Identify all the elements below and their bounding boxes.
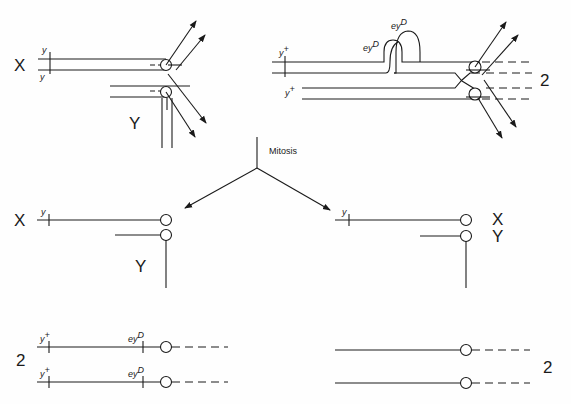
gene-label-ey-d: eyD	[391, 18, 407, 31]
chromosome-count: 2	[540, 72, 549, 89]
gene-label-y: y	[40, 73, 45, 82]
centromere	[461, 231, 472, 242]
gene-superscript: +	[45, 330, 50, 340]
gene-superscript: D	[138, 365, 145, 375]
label-x-chromosome: X	[14, 57, 25, 74]
label-y-chromosome: Y	[129, 115, 140, 132]
gene-label-y-plus: y+	[40, 366, 50, 379]
gene-label-ey-d: eyD	[128, 331, 144, 344]
gene-name: ey	[363, 43, 373, 53]
gene-superscript: +	[290, 84, 295, 94]
gene-superscript: D	[138, 330, 145, 340]
gene-name: ey	[128, 334, 138, 344]
centromere	[461, 215, 472, 226]
mitosis-branch-arrows	[185, 137, 330, 260]
centromere	[161, 230, 172, 241]
centromere	[161, 377, 172, 388]
mitosis-label: Mitosis	[269, 147, 297, 156]
gene-superscript: D	[373, 39, 380, 49]
middle-left-chromosomes	[37, 214, 172, 288]
chromosome-count: 2	[16, 352, 25, 369]
centromere	[161, 215, 172, 226]
centromere	[161, 342, 172, 353]
gene-label-y-plus: y+	[279, 45, 289, 58]
centromere	[461, 378, 472, 389]
gene-name: ey	[391, 21, 401, 31]
gene-label-y: y	[42, 46, 47, 55]
centromere	[461, 345, 472, 356]
gene-label-y: y	[342, 208, 347, 217]
label-x-chromosome: X	[492, 211, 503, 228]
label-y-chromosome: Y	[492, 228, 503, 245]
gene-label-y: y	[41, 208, 46, 217]
bottom-left-chromosomes	[37, 341, 228, 388]
top-right-chromosomes	[272, 22, 532, 138]
top-left-y-chromosome	[110, 86, 190, 148]
gene-superscript: +	[284, 44, 289, 54]
middle-right-chromosomes	[335, 214, 472, 288]
diagram-lines	[0, 0, 571, 404]
top-left-x-chromosome	[38, 52, 182, 74]
gene-label-ey-d: eyD	[128, 366, 144, 379]
bottom-right-chromosomes	[335, 345, 530, 389]
chromosome-count: 2	[543, 359, 552, 376]
label-x-chromosome: X	[14, 212, 25, 229]
gene-label-ey-d: eyD	[363, 40, 379, 53]
gene-name: ey	[128, 369, 138, 379]
gene-superscript: D	[401, 17, 408, 27]
label-y-chromosome: Y	[135, 258, 146, 275]
gene-label-y-plus: y+	[40, 331, 50, 344]
centromere	[469, 88, 481, 100]
mitosis-diagram: X Y y y y+ y+ eyD eyD 2 Mitosis X Y y X …	[0, 0, 571, 404]
gene-label-y-plus: y+	[285, 85, 295, 98]
gene-superscript: +	[45, 365, 50, 375]
